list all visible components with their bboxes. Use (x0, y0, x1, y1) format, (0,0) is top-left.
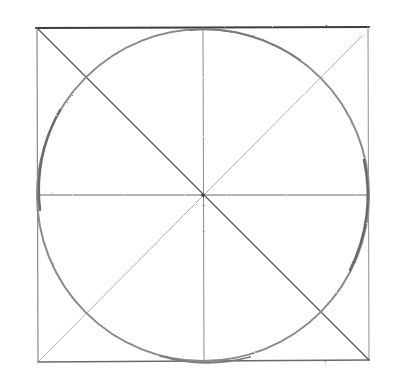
pencil-sketch (0, 0, 397, 388)
sketch-canvas (0, 0, 397, 388)
circle-shading-top (190, 29, 300, 60)
square-top-edge (36, 27, 369, 28)
center-point (201, 193, 205, 197)
